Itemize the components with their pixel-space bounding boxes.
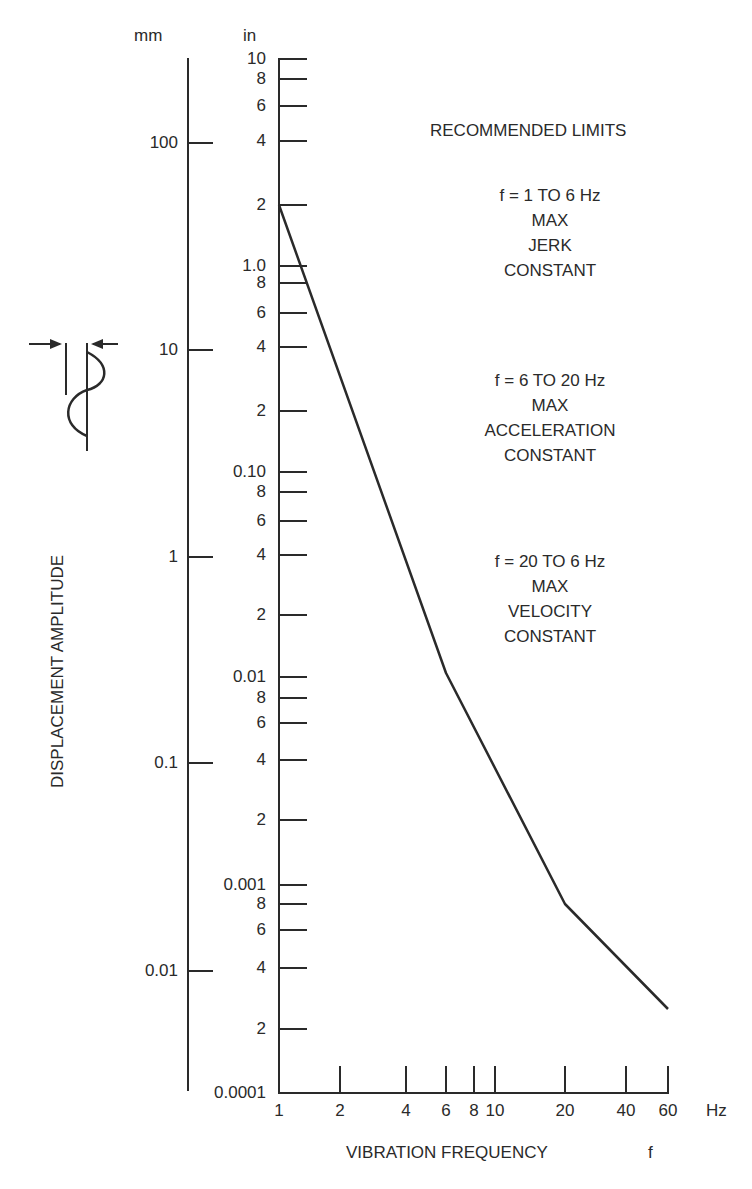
- mm-tick-marks: [188, 143, 213, 971]
- x-tick-label: 10: [475, 1101, 515, 1121]
- in-tick-label: 4: [257, 958, 266, 978]
- in-tick-label: 6: [257, 303, 266, 323]
- x-tick-label: 1: [259, 1101, 299, 1121]
- in-tick-label: 2: [257, 195, 266, 215]
- in-tick-label: 8: [257, 273, 266, 293]
- chart-title: RECOMMENDED LIMITS: [430, 121, 626, 141]
- mm-tick-label: 0.1: [154, 753, 178, 773]
- in-tick-label: 6: [257, 920, 266, 940]
- in-tick-label: 2: [257, 810, 266, 830]
- in-tick-label: 4: [257, 750, 266, 770]
- in-tick-label: 2: [257, 1019, 266, 1039]
- displacement-amplitude-icon: [29, 339, 118, 451]
- mm-unit-label: mm: [134, 26, 162, 46]
- in-tick-label: 6: [257, 713, 266, 733]
- in-tick-label: 8: [257, 688, 266, 708]
- mm-tick-label: 10: [159, 340, 178, 360]
- y-axis-title: DISPLACEMENT AMPLITUDE: [48, 555, 68, 788]
- annotation-acceleration: f = 6 TO 20 Hz MAX ACCELERATION CONSTANT: [440, 368, 660, 468]
- in-tick-label: 10: [247, 49, 266, 69]
- in-tick-label: 6: [257, 511, 266, 531]
- mm-tick-label: 0.01: [145, 961, 178, 981]
- in-tick-label: 8: [257, 69, 266, 89]
- in-tick-marks: [279, 59, 307, 1029]
- x-tick-marks: [340, 1066, 668, 1093]
- in-tick-label: 8: [257, 894, 266, 914]
- mm-tick-label: 1: [169, 547, 178, 567]
- mm-tick-label: 100: [150, 133, 178, 153]
- in-unit-label: in: [243, 26, 256, 46]
- x-tick-label: 20: [545, 1101, 585, 1121]
- in-tick-label: 4: [257, 131, 266, 151]
- hz-unit-label: Hz: [706, 1101, 727, 1121]
- in-tick-label: 6: [257, 96, 266, 116]
- x-tick-label: 2: [320, 1101, 360, 1121]
- x-tick-label: 40: [606, 1101, 646, 1121]
- in-tick-label: 8: [257, 482, 266, 502]
- in-tick-label: 2: [257, 401, 266, 421]
- in-tick-label: 4: [257, 337, 266, 357]
- in-tick-label: 4: [257, 545, 266, 565]
- annotation-jerk: f = 1 TO 6 Hz MAX JERK CONSTANT: [440, 183, 660, 283]
- x-tick-label: 60: [648, 1101, 688, 1121]
- in-tick-label: 0.001: [223, 875, 266, 895]
- in-tick-label: 2: [257, 605, 266, 625]
- frequency-symbol: f: [648, 1143, 653, 1163]
- x-tick-label: 4: [386, 1101, 426, 1121]
- x-axis-title: VIBRATION FREQUENCY: [346, 1143, 548, 1163]
- in-tick-label: 0.0001: [214, 1083, 266, 1103]
- in-tick-label: 0.10: [233, 462, 266, 482]
- annotation-velocity: f = 20 TO 6 Hz MAX VELOCITY CONSTANT: [440, 549, 660, 649]
- in-tick-label: 0.01: [233, 667, 266, 687]
